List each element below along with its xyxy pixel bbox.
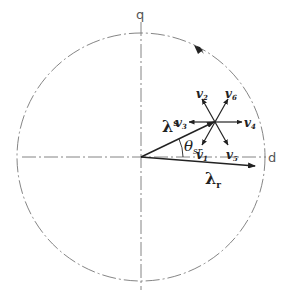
flux-vector-diagram: q d λs λr θsr v1 v2 v3 v4 v5 v6 [0, 0, 300, 293]
v3-label: v3 [175, 116, 187, 131]
v4-label: v4 [244, 116, 256, 131]
v2-label: v2 [196, 87, 208, 102]
q-axis-label: q [136, 7, 144, 22]
voltage-vector-star [189, 99, 242, 145]
v5-label: v5 [226, 148, 238, 163]
theta-angle-arc [179, 139, 183, 157]
d-axis-label: d [268, 150, 276, 165]
lambda-r-label: λr [205, 169, 221, 190]
v1-label: v1 [196, 148, 208, 163]
v6-label: v6 [225, 87, 237, 102]
